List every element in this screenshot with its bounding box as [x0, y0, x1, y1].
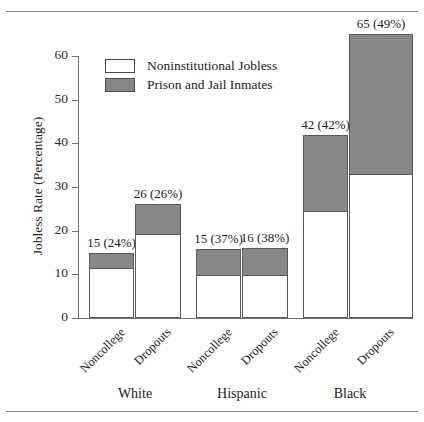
chart-legend: Noninstitutional Jobless Prison and Jail…	[105, 58, 315, 96]
y-tick-mark	[72, 274, 79, 275]
y-tick-label: 40	[0, 143, 68, 159]
bar-segment-prison-jail-inmates	[196, 249, 241, 276]
y-axis-title: Jobless Rate (Percentage)	[30, 86, 46, 286]
bar-segment-prison-jail-inmates	[89, 253, 134, 270]
x-category-label: Dropouts	[333, 325, 397, 389]
legend-label-inmates: Prison and Jail Inmates	[147, 77, 273, 93]
stacked-bar	[303, 135, 348, 318]
y-tick-mark	[72, 187, 79, 188]
y-tick-label: 10	[0, 274, 68, 290]
bar-segment-prison-jail-inmates	[242, 248, 288, 276]
chart-plot-area: Jobless Rate (Percentage) 0102030405060 …	[0, 0, 424, 422]
stacked-bar	[349, 34, 413, 318]
y-tick-label: 60	[0, 56, 68, 72]
bar-segment-prison-jail-inmates	[349, 34, 413, 175]
y-tick-mark	[72, 100, 79, 101]
y-tick-label: 0	[0, 318, 68, 334]
x-group-label: Hispanic	[192, 386, 292, 402]
x-group-label: White	[85, 386, 185, 402]
bar-value-label: 16 (38%)	[220, 230, 310, 246]
bar-segment-noninstitutional-jobless	[89, 268, 134, 318]
legend-item-prison-jail-inmates: Prison and Jail Inmates	[105, 77, 315, 94]
y-tick-mark	[72, 56, 79, 57]
bar-segment-noninstitutional-jobless	[349, 174, 413, 318]
y-tick-mark	[72, 231, 79, 232]
y-tick-label: 30	[0, 187, 68, 203]
bar-segment-noninstitutional-jobless	[242, 275, 288, 318]
bar-segment-noninstitutional-jobless	[303, 211, 348, 318]
x-axis-line	[78, 318, 413, 319]
bar-value-label: 26 (26%)	[113, 186, 203, 202]
legend-label-jobless: Noninstitutional Jobless	[147, 58, 277, 74]
legend-item-noninstitutional-jobless: Noninstitutional Jobless	[105, 58, 315, 75]
stacked-bar	[135, 204, 181, 318]
legend-swatch-icon-jobless	[105, 59, 135, 73]
y-tick-label: 20	[0, 231, 68, 247]
stacked-bar	[242, 248, 288, 318]
bar-segment-noninstitutional-jobless	[196, 275, 241, 318]
x-category-label: Noncollege	[278, 325, 342, 389]
bar-value-label: 65 (49%)	[336, 16, 424, 32]
legend-swatch-icon-inmates	[105, 78, 135, 92]
stacked-bar	[89, 253, 134, 319]
bar-segment-prison-jail-inmates	[303, 135, 348, 213]
x-group-label: Black	[300, 386, 400, 402]
y-tick-mark	[72, 318, 79, 319]
y-tick-mark	[72, 143, 79, 144]
y-tick-label: 50	[0, 100, 68, 116]
stacked-bar	[196, 249, 241, 318]
